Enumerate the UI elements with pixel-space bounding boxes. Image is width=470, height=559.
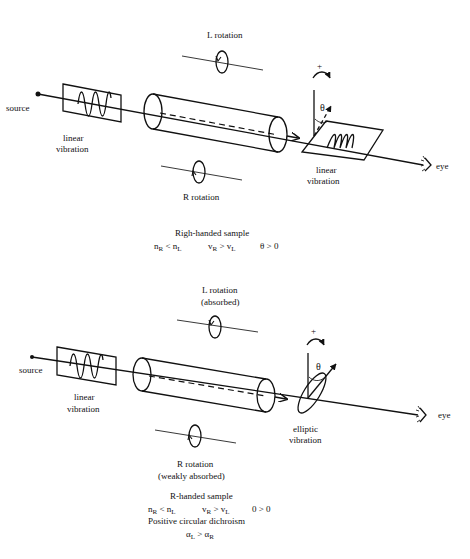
- source-label: source: [19, 365, 43, 375]
- relation-n: nR < nL: [154, 241, 182, 253]
- r-rotation-label-1: R rotation: [177, 459, 214, 469]
- output-elliptic-vibration: [293, 339, 336, 417]
- l-rotation-label-2: (absorbed): [201, 297, 239, 307]
- relation-theta: 0 > 0: [252, 504, 271, 514]
- input-linear-vibration: [57, 347, 116, 385]
- l-rotation-label-1: L rotation: [202, 285, 238, 295]
- source-point: [30, 355, 34, 359]
- plus-label: +: [317, 61, 322, 71]
- l-rotation-label: L rotation: [207, 30, 243, 40]
- beam-arrow: [287, 136, 298, 138]
- output-vibration-label-2: vibration: [289, 435, 322, 445]
- beam-arrow: [275, 397, 286, 399]
- light-beam: [38, 94, 423, 165]
- source-point: [36, 92, 41, 97]
- output-vibration-label-1: elliptic: [293, 424, 318, 434]
- sample-cylinder: [144, 94, 287, 152]
- l-rotation-bottom: [177, 316, 258, 338]
- theta-label: θ: [320, 102, 325, 113]
- sample-title: R-handed sample: [170, 491, 233, 501]
- circular-birefringence-diagram: source linear vibration L rotation: [0, 0, 470, 559]
- plus-label: +: [311, 326, 316, 336]
- relation-theta: θ > 0: [260, 241, 279, 251]
- relation-v: vR > vL: [208, 241, 236, 253]
- eye-label: eye: [438, 410, 451, 420]
- input-vibration-label-1: linear: [63, 133, 84, 143]
- r-rotation-label-2: (weakly absorbed): [158, 471, 225, 481]
- output-vibration-label-2: vibration: [307, 176, 340, 186]
- output-linear-vibration: [302, 72, 383, 160]
- relation-v: vR > vL: [202, 504, 230, 516]
- r-rotation-label: R rotation: [183, 192, 220, 202]
- source-label: source: [6, 103, 30, 113]
- sample-cylinder: [133, 358, 275, 412]
- panel-bottom: source linear vibration L rotation (abso…: [19, 285, 451, 541]
- l-rotation-top: [182, 51, 263, 73]
- input-linear-vibration: [63, 84, 121, 122]
- output-vibration-label-1: linear: [316, 165, 337, 175]
- eye-icon: [416, 406, 426, 422]
- relation-alpha: αL > αR: [186, 529, 214, 541]
- relation-n: nR < nL: [148, 504, 176, 516]
- eye-label: eye: [436, 161, 449, 171]
- eye-icon: [421, 156, 431, 171]
- theta-label: θ: [316, 361, 321, 372]
- panel-top: source linear vibration L rotation: [6, 30, 449, 253]
- dichroism-label: Positive circular dichroism: [148, 516, 245, 526]
- r-rotation-top: [161, 161, 242, 183]
- input-vibration-label-2: vibration: [56, 144, 89, 154]
- sample-title: Righ-handed sample: [175, 228, 249, 238]
- input-vibration-label-1: linear: [74, 392, 95, 402]
- r-rotation-bottom: [155, 425, 236, 447]
- input-vibration-label-2: vibration: [67, 404, 100, 414]
